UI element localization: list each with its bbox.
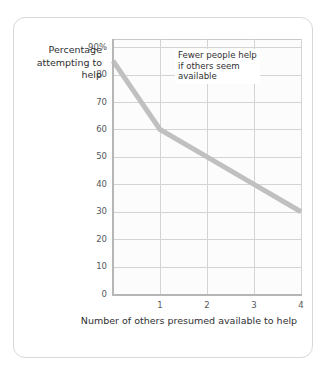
y-tick-label: 70 xyxy=(67,98,107,107)
y-tick-label: 10 xyxy=(67,262,107,271)
plot-area: Fewer people help if others seem availab… xyxy=(113,39,301,294)
y-tick-label: 40 xyxy=(67,180,107,189)
y-tick-label: 50 xyxy=(67,152,107,161)
x-tick-label: 3 xyxy=(244,301,264,310)
x-axis-line xyxy=(112,294,302,296)
y-tick-label: 0 xyxy=(67,290,107,299)
x-axis-title: Number of others presumed available to h… xyxy=(74,315,304,328)
x-tick-label: 1 xyxy=(150,301,170,310)
y-tick-label: 30 xyxy=(67,207,107,216)
chart-annotation: Fewer people help if others seem availab… xyxy=(175,49,260,84)
x-tick-label: 4 xyxy=(291,301,311,310)
figure-card: Fewer people help if others seem availab… xyxy=(13,17,313,358)
y-tick-label: 60 xyxy=(67,125,107,134)
y-axis-line xyxy=(112,39,114,295)
y-tick-label: 20 xyxy=(67,235,107,244)
gridline-vertical xyxy=(301,39,302,294)
y-axis-title: Percentage attempting to help xyxy=(22,44,102,82)
x-tick-label: 2 xyxy=(197,301,217,310)
